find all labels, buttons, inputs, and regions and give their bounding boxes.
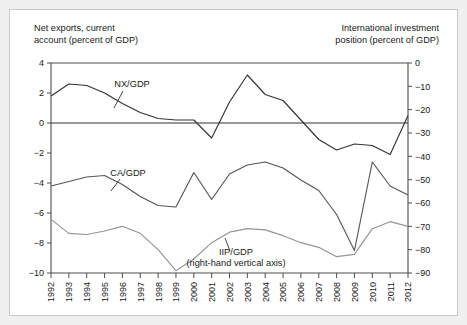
left-tick-label: 2 <box>39 88 44 98</box>
x-tick-label: 1997 <box>136 282 146 302</box>
x-tick-label: 1994 <box>82 282 92 302</box>
x-tick-label: 1992 <box>46 282 56 302</box>
right-tick-label: −90 <box>415 268 430 278</box>
x-tick-label: 1993 <box>64 282 74 302</box>
x-tick-label: 2009 <box>350 282 360 302</box>
data-series-group <box>51 75 408 271</box>
axes-group <box>51 63 408 273</box>
x-tick-label: 2005 <box>278 282 288 302</box>
left-tick-label: −2 <box>34 148 44 158</box>
left-tick-label: −6 <box>34 208 44 218</box>
x-tick-label: 2001 <box>207 282 217 302</box>
right-tick-label: −10 <box>415 82 430 92</box>
x-tick-label: 2007 <box>314 282 324 302</box>
x-tick-label: 1998 <box>154 282 164 302</box>
left-axis-ticks: 420−2−4−6−8−10 <box>29 58 51 278</box>
right-tick-label: −20 <box>415 105 430 115</box>
figure-container: Net exports, current account (percent of… <box>0 0 467 325</box>
right-tick-label: −30 <box>415 128 430 138</box>
x-tick-label: 2004 <box>261 282 271 302</box>
annotation-label: NX/GDP <box>114 79 150 89</box>
left-tick-label: 4 <box>39 58 44 68</box>
annotation-label: IIP/GDP <box>219 247 253 257</box>
x-tick-label: 2010 <box>368 282 378 302</box>
x-tick-label: 1996 <box>118 282 128 302</box>
right-tick-label: −40 <box>415 152 430 162</box>
series-annotations: NX/GDPCA/GDPIIP/GDP(right-hand vertical … <box>110 79 285 268</box>
right-tick-label: −60 <box>415 198 430 208</box>
x-tick-label: 2000 <box>189 282 199 302</box>
series-line-nx-gdp <box>51 75 408 155</box>
series-line-ca-gdp <box>51 162 408 251</box>
right-tick-label: −80 <box>415 245 430 255</box>
left-tick-label: −10 <box>29 268 44 278</box>
chart-plot: 420−2−4−6−8−10 0−10−20−30−40−50−60−70−80… <box>10 10 459 317</box>
annotation-label: CA/GDP <box>110 168 146 178</box>
x-tick-label: 2011 <box>386 282 396 301</box>
x-tick-label: 2008 <box>332 282 342 302</box>
x-tick-label: 1995 <box>100 282 110 302</box>
x-tick-label: 2006 <box>296 282 306 302</box>
left-tick-label: −8 <box>34 238 44 248</box>
right-tick-label: −70 <box>415 222 430 232</box>
x-tick-label: 1999 <box>171 282 181 302</box>
x-tick-label: 2002 <box>225 282 235 302</box>
annotation-sublabel: (right-hand vertical axis) <box>186 258 285 268</box>
x-tick-label: 2012 <box>403 282 413 302</box>
right-tick-label: 0 <box>415 58 420 68</box>
right-axis-ticks: 0−10−20−30−40−50−60−70−80−90 <box>408 58 430 278</box>
left-tick-label: −4 <box>34 178 44 188</box>
figure-panel: Net exports, current account (percent of… <box>9 9 458 316</box>
x-tick-label: 2003 <box>243 282 253 302</box>
right-tick-label: −50 <box>415 175 430 185</box>
x-axis-ticks: 1992199319941995199619971998199920002001… <box>46 273 413 302</box>
left-tick-label: 0 <box>39 118 44 128</box>
